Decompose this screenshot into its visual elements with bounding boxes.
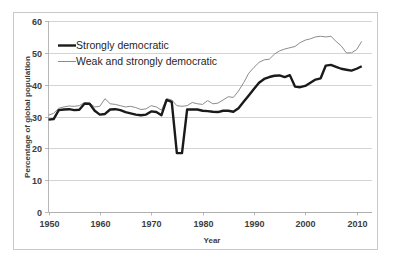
- y-tick-label-50: 50: [32, 49, 42, 59]
- y-tick-labels: 0102030405060: [32, 17, 42, 218]
- y-tick-label-20: 20: [32, 144, 42, 154]
- y-tick-label-0: 0: [37, 208, 42, 218]
- x-tick-label-1970: 1970: [141, 219, 161, 229]
- y-tick-label-60: 60: [32, 17, 42, 27]
- chart-plot-area: 0102030405060 19501960197019801990200020…: [0, 0, 398, 265]
- y-tick-label-10: 10: [32, 176, 42, 186]
- x-tick-label-1950: 1950: [39, 219, 59, 229]
- series-line-strongly-democratic: [49, 65, 362, 153]
- legend: Strongly democratic Weak and strongly de…: [58, 39, 217, 67]
- x-tick-label-1990: 1990: [244, 219, 264, 229]
- y-tick-marks: [45, 22, 49, 213]
- x-tick-label-2000: 2000: [295, 219, 315, 229]
- chart-figure: 0102030405060 19501960197019801990200020…: [0, 0, 398, 265]
- legend-label-strongly-democratic: Strongly democratic: [76, 39, 169, 51]
- y-tick-label-40: 40: [32, 81, 42, 91]
- y-tick-label-30: 30: [32, 113, 42, 123]
- x-tick-label-1980: 1980: [193, 219, 213, 229]
- x-axis-title: Year: [204, 236, 221, 245]
- x-tick-labels: 1950196019701980199020002010: [39, 219, 367, 229]
- legend-label-weak-and-strongly-democratic: Weak and strongly democratic: [76, 55, 217, 67]
- x-tick-label-2010: 2010: [347, 219, 367, 229]
- y-axis-title: Percentage of global population: [23, 56, 32, 178]
- x-tick-label-1960: 1960: [90, 219, 110, 229]
